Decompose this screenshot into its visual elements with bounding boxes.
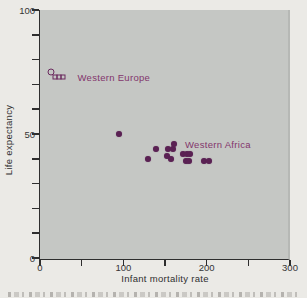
x-axis-tick (164, 260, 166, 266)
scatter-plot-figure: Life expectancy Infant mortality rate 05… (0, 0, 307, 298)
y-tick-label: 50 (6, 129, 35, 140)
x-axis-tick (81, 260, 83, 266)
data-point-western-africa (206, 158, 212, 164)
y-axis-tick (32, 84, 39, 86)
series-label-western-europe: Western Europe (78, 71, 151, 82)
y-axis-tick (32, 34, 39, 36)
data-point-western-africa (145, 156, 151, 162)
x-tick-label: 0 (25, 262, 55, 273)
series-label-western-africa: Western Africa (185, 138, 251, 149)
x-tick-label: 300 (275, 262, 305, 273)
data-point-western-africa (116, 131, 122, 137)
y-axis-tick (32, 59, 39, 61)
y-axis-tick (32, 108, 39, 110)
data-point-western-africa (186, 158, 192, 164)
y-axis-tick (32, 183, 39, 185)
y-axis-tick (32, 158, 39, 160)
y-axis-tick (32, 232, 39, 234)
y-axis-title: Life expectancy (3, 90, 15, 190)
x-axis-title: Infant mortality rate (40, 273, 290, 284)
x-tick-label: 200 (192, 262, 222, 273)
data-point-western-africa (168, 156, 174, 162)
x-axis-tick (248, 260, 250, 266)
plot-area (39, 10, 291, 260)
data-point-western-africa (171, 141, 177, 147)
y-axis-tick (32, 208, 39, 210)
cropped-caption-text (8, 292, 300, 297)
x-tick-label: 100 (108, 262, 138, 273)
y-tick-label: 100 (6, 5, 35, 16)
data-point-western-africa (187, 151, 193, 157)
data-point-western-europe (61, 74, 66, 79)
data-point-western-africa (153, 146, 159, 152)
